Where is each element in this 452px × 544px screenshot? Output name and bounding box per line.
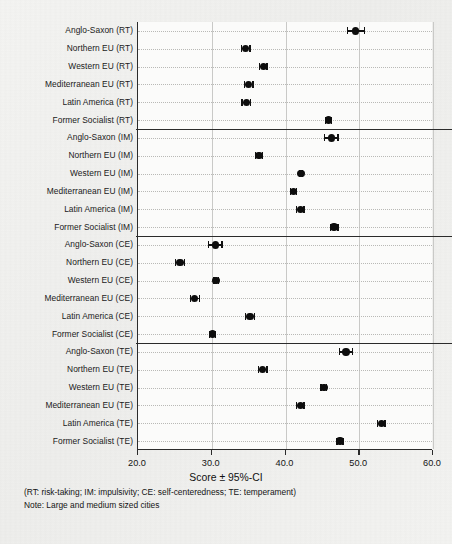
y-axis-category-label: Western EU (IM) [70, 168, 133, 178]
group-separator-line [136, 236, 452, 237]
y-axis-category-label: Anglo-Saxon (CE) [65, 239, 133, 249]
confidence-interval-cap [208, 241, 209, 248]
horizontal-gridline [138, 245, 432, 246]
y-axis-category-label: Latin America (TE) [63, 418, 133, 428]
data-point-marker [255, 152, 262, 159]
confidence-interval-cap [352, 348, 353, 355]
confidence-interval-cap [254, 313, 255, 320]
horizontal-gridline [138, 67, 432, 68]
x-axis-title: Score ± 95%-CI [0, 472, 452, 483]
data-point-marker [212, 241, 219, 248]
confidence-interval-cap [324, 134, 325, 141]
horizontal-gridline [138, 191, 432, 192]
y-axis-category-label: Former Socialist (RT) [53, 115, 133, 125]
y-axis-category-label: Northern EU (RT) [67, 43, 133, 53]
y-axis-category-label: Northern EU (CE) [66, 257, 133, 267]
data-point-marker [342, 348, 349, 355]
y-axis-category-label: Mediterranean EU (IM) [47, 186, 133, 196]
x-axis-tick-label: 20.0 [117, 458, 157, 468]
data-point-marker [245, 81, 252, 88]
horizontal-gridline [138, 120, 432, 121]
group-separator-line [136, 129, 452, 130]
figure-container: Score ± 95%-CI (RT: risk-taking; IM: imp… [0, 0, 452, 544]
data-point-marker [259, 366, 266, 373]
confidence-interval-cap [252, 81, 253, 88]
data-point-marker [297, 402, 304, 409]
horizontal-gridline [138, 334, 432, 335]
x-axis-tick [285, 450, 286, 455]
data-point-marker [378, 420, 385, 427]
x-axis-tick [211, 450, 212, 455]
data-point-marker [212, 277, 219, 284]
data-point-marker [209, 330, 216, 337]
data-point-marker [352, 27, 359, 34]
y-axis-category-label: Western EU (CE) [68, 275, 133, 285]
y-axis-category-label: Mediterranean EU (RT) [45, 79, 133, 89]
y-axis-category-label: Latin America (CE) [62, 311, 133, 321]
y-axis-category-label: Western EU (RT) [68, 61, 133, 71]
horizontal-gridline [138, 441, 432, 442]
horizontal-gridline [138, 102, 432, 103]
y-axis-category-label: Mediterranean EU (TE) [45, 400, 133, 410]
data-point-marker [330, 223, 337, 230]
confidence-interval-cap [249, 45, 250, 52]
data-point-marker [176, 259, 183, 266]
confidence-interval-cap [221, 241, 222, 248]
horizontal-gridline [138, 31, 432, 32]
y-axis-category-label: Latin America (RT) [62, 97, 133, 107]
x-axis-tick [137, 450, 138, 455]
y-axis-category-label: Anglo-Saxon (IM) [67, 132, 133, 142]
x-axis-tick-label: 50.0 [338, 458, 378, 468]
horizontal-gridline [138, 156, 432, 157]
y-axis-category-label: Latin America (IM) [64, 204, 133, 214]
data-point-marker [325, 116, 332, 123]
confidence-interval-cap [347, 27, 348, 34]
x-axis-tick-label: 60.0 [412, 458, 452, 468]
data-point-marker [191, 295, 198, 302]
data-point-marker [246, 313, 253, 320]
y-axis-category-label: Former Socialist (IM) [54, 222, 133, 232]
data-point-marker [336, 437, 343, 444]
horizontal-gridline [138, 423, 432, 424]
data-point-marker [243, 99, 250, 106]
horizontal-gridline [138, 227, 432, 228]
horizontal-gridline [138, 174, 432, 175]
y-axis-category-label: Anglo-Saxon (RT) [65, 25, 133, 35]
data-point-marker [328, 134, 335, 141]
horizontal-gridline [138, 138, 432, 139]
x-axis-tick-label: 30.0 [191, 458, 231, 468]
y-axis-category-label: Former Socialist (TE) [53, 436, 133, 446]
confidence-interval-cap [250, 99, 251, 106]
horizontal-gridline [138, 49, 432, 50]
horizontal-gridline [138, 370, 432, 371]
horizontal-gridline [138, 405, 432, 406]
data-point-marker [297, 206, 304, 213]
confidence-interval-cap [339, 348, 340, 355]
horizontal-gridline [138, 352, 432, 353]
confidence-interval-cap [364, 27, 365, 34]
horizontal-gridline [138, 281, 432, 282]
horizontal-gridline [138, 209, 432, 210]
confidence-interval-cap [266, 366, 267, 373]
horizontal-gridline [138, 316, 432, 317]
confidence-interval-cap [184, 259, 185, 266]
y-axis-category-label: Anglo-Saxon (TE) [66, 346, 133, 356]
data-point-marker [320, 384, 327, 391]
horizontal-gridline [138, 298, 432, 299]
y-axis-category-label: Northern EU (IM) [68, 150, 133, 160]
x-axis-tick [358, 450, 359, 455]
data-point-marker [242, 45, 249, 52]
footnote-abbreviations: (RT: risk-taking; IM: impulsivity; CE: s… [24, 487, 296, 497]
y-axis-category-label: Northern EU (TE) [67, 364, 133, 374]
confidence-interval-cap [337, 134, 338, 141]
footnote-note: Note: Large and medium sized cities [24, 500, 159, 510]
group-separator-line [136, 343, 452, 344]
y-axis-category-label: Western EU (TE) [69, 382, 133, 392]
x-axis-tick-label: 40.0 [265, 458, 305, 468]
horizontal-gridline [138, 84, 432, 85]
data-point-marker [297, 170, 304, 177]
x-axis-tick [432, 450, 433, 455]
confidence-interval-cap [199, 295, 200, 302]
y-axis-category-label: Mediterranean EU (CE) [44, 293, 133, 303]
y-axis-category-label: Former Socialist (CE) [52, 329, 133, 339]
